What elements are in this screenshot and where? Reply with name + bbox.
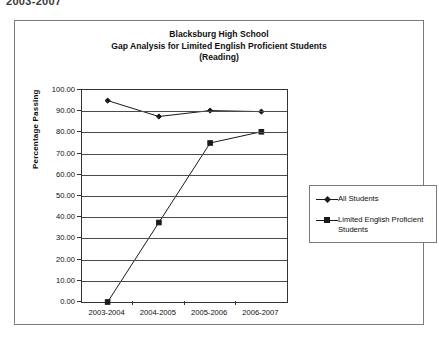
gridline <box>82 260 287 261</box>
chart-title: Blacksburg High School Gap Analysis for … <box>15 29 423 64</box>
chart-object-frame: Blacksburg High School Gap Analysis for … <box>14 20 424 325</box>
data-point-marker <box>105 300 110 305</box>
y-tick-label: 100.00 <box>35 85 75 94</box>
data-point-marker <box>157 220 162 225</box>
chart-title-line-1: Blacksburg High School <box>15 29 423 41</box>
x-tick-label: 2005-2006 <box>191 308 227 317</box>
x-tick-mark <box>235 301 236 305</box>
y-tick-label: 0.00 <box>35 297 75 306</box>
data-point-marker <box>105 98 110 103</box>
gridline <box>82 154 287 155</box>
y-tick-label: 50.00 <box>35 191 75 200</box>
legend-item-lep-students: Limited English Proficient Students <box>316 215 432 234</box>
y-tick-label: 70.00 <box>35 148 75 157</box>
x-tick-label: 2006-2007 <box>242 308 278 317</box>
legend-key-square-icon <box>316 216 338 225</box>
data-point-marker <box>156 114 161 119</box>
legend-key-diamond-icon <box>316 195 338 204</box>
plot-area <box>81 89 288 303</box>
legend-label-lep-students: Limited English Proficient Students <box>338 215 432 234</box>
y-tick-label: 90.00 <box>35 106 75 115</box>
chart-title-line-3: (Reading) <box>15 52 423 64</box>
y-tick-label: 20.00 <box>35 254 75 263</box>
x-tick-label: 2003-2004 <box>88 308 124 317</box>
gridline <box>82 217 287 218</box>
y-tick-label: 60.00 <box>35 169 75 178</box>
x-tick-mark <box>184 301 185 305</box>
data-point-marker <box>208 141 213 146</box>
x-tick-mark <box>132 301 133 305</box>
legend-item-all-students: All Students <box>316 194 432 204</box>
gridline <box>82 175 287 176</box>
x-tick-label: 2004-2005 <box>140 308 176 317</box>
gridline <box>82 196 287 197</box>
gridline <box>82 111 287 112</box>
y-tick-label: 40.00 <box>35 212 75 221</box>
legend-label-all-students: All Students <box>338 194 379 204</box>
gridline <box>82 238 287 239</box>
y-tick-label: 80.00 <box>35 127 75 136</box>
series-line-0 <box>108 101 262 117</box>
page-header-text: 2003-2007 <box>6 0 61 7</box>
y-tick-label: 10.00 <box>35 275 75 284</box>
gridline <box>82 132 287 133</box>
chart-title-line-2: Gap Analysis for Limited English Profici… <box>15 41 423 53</box>
gridline <box>82 281 287 282</box>
chart-legend: All Students Limited English Proficient … <box>309 185 437 243</box>
y-tick-label: 30.00 <box>35 233 75 242</box>
